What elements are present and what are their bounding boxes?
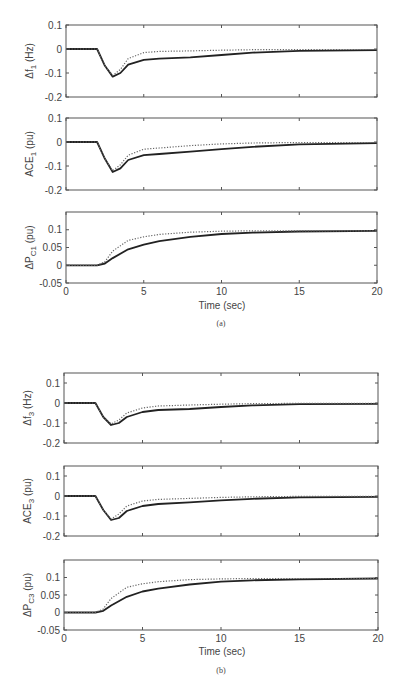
x-tick-label: 5 bbox=[140, 633, 146, 644]
caption-a: (a) bbox=[217, 319, 226, 328]
caption-b: (b) bbox=[216, 666, 226, 675]
xlabel-a: Time (sec) bbox=[199, 300, 246, 311]
x-tick-label: 15 bbox=[294, 286, 306, 297]
chart-panel-4: -0.2-0.100.1Δf3 (Hz) bbox=[22, 373, 378, 449]
y-tick-label: -0.1 bbox=[43, 418, 61, 429]
y-tick-label: -0.1 bbox=[45, 68, 63, 79]
series-solid bbox=[64, 579, 378, 613]
chart-panel-2: -0.2-0.100.1ACE1 (pu) bbox=[24, 113, 377, 196]
y-axis-label: Δf3 (Hz) bbox=[22, 390, 36, 426]
series-dotted bbox=[64, 579, 378, 613]
axes-frame bbox=[64, 373, 378, 443]
y-tick-label: -0.05 bbox=[39, 278, 62, 289]
y-tick-label: 0 bbox=[54, 491, 60, 502]
xlabel-b: Time (sec) bbox=[199, 646, 246, 657]
y-tick-label: -0.2 bbox=[43, 438, 61, 449]
y-tick-label: 0.1 bbox=[48, 113, 62, 124]
y-tick-label: -0.1 bbox=[43, 511, 61, 522]
y-tick-label: -0.05 bbox=[37, 625, 60, 636]
y-tick-label: -0.2 bbox=[43, 531, 61, 542]
axes-frame bbox=[66, 118, 377, 190]
x-tick-label: 10 bbox=[215, 633, 227, 644]
y-axis-label: Δf1 (Hz) bbox=[24, 43, 38, 79]
y-axis-label: ΔPC3 (pu) bbox=[22, 573, 36, 617]
chart-panel-6: 05101520-0.0500.050.1ΔPC3 (pu) bbox=[22, 560, 384, 644]
series-solid bbox=[64, 403, 378, 425]
axes-frame bbox=[66, 25, 377, 97]
y-axis-label: ΔPC1 (pu) bbox=[24, 225, 38, 269]
series-solid bbox=[66, 231, 377, 265]
x-tick-label: 10 bbox=[216, 286, 228, 297]
axes-frame bbox=[66, 212, 377, 283]
chart-panel-5: -0.2-0.100.1ACE3 (pu) bbox=[22, 466, 378, 542]
y-tick-label: 0 bbox=[56, 44, 62, 55]
series-dotted bbox=[66, 231, 377, 265]
y-tick-label: 0.05 bbox=[43, 242, 63, 253]
y-tick-label: -0.1 bbox=[45, 161, 63, 172]
x-tick-label: 5 bbox=[141, 286, 147, 297]
x-tick-label: 0 bbox=[63, 286, 69, 297]
y-tick-label: 0.1 bbox=[48, 20, 62, 31]
y-tick-label: -0.2 bbox=[45, 92, 63, 103]
series-dotted bbox=[66, 49, 377, 75]
y-axis-label: ACE1 (pu) bbox=[24, 131, 38, 177]
chart-panel-1: -0.2-0.100.1Δf1 (Hz) bbox=[24, 20, 377, 103]
y-tick-label: 0 bbox=[54, 607, 60, 618]
series-solid bbox=[66, 142, 377, 172]
y-tick-label: 0.05 bbox=[41, 590, 61, 601]
y-tick-label: 0.1 bbox=[46, 572, 60, 583]
x-tick-label: 20 bbox=[372, 633, 384, 644]
series-dotted bbox=[66, 142, 377, 171]
x-tick-label: 0 bbox=[61, 633, 67, 644]
y-tick-label: 0 bbox=[54, 398, 60, 409]
axes-frame bbox=[64, 560, 378, 630]
series-solid bbox=[64, 496, 378, 520]
y-tick-label: 0.1 bbox=[46, 378, 60, 389]
figure-canvas: -0.2-0.100.1Δf1 (Hz)-0.2-0.100.1ACE1 (pu… bbox=[0, 0, 399, 690]
panels: -0.2-0.100.1Δf1 (Hz)-0.2-0.100.1ACE1 (pu… bbox=[22, 20, 384, 645]
x-tick-label: 20 bbox=[371, 286, 383, 297]
y-tick-label: 0.1 bbox=[48, 224, 62, 235]
y-tick-label: -0.2 bbox=[45, 185, 63, 196]
series-dotted bbox=[64, 496, 378, 519]
chart-panel-3: 05101520-0.0500.050.1ΔPC1 (pu) bbox=[24, 212, 383, 297]
y-axis-label: ACE3 (pu) bbox=[22, 478, 36, 524]
y-tick-label: 0.1 bbox=[46, 471, 60, 482]
y-tick-label: 0 bbox=[56, 137, 62, 148]
x-tick-label: 15 bbox=[294, 633, 306, 644]
y-tick-label: 0 bbox=[56, 260, 62, 271]
series-solid bbox=[66, 49, 377, 77]
